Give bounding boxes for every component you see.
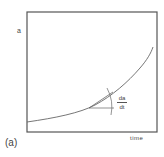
derivative-numerator: da — [119, 95, 126, 102]
slope-arc-marker — [107, 88, 112, 115]
y-axis-label: a — [17, 27, 21, 34]
panel-label: (a) — [5, 138, 17, 148]
growth-curve-diagram — [0, 0, 164, 157]
growth-curve — [27, 47, 153, 122]
derivative-denominator: dt — [119, 103, 124, 110]
derivative-label: da dt — [117, 95, 127, 110]
plot-frame — [27, 12, 157, 132]
tangent-line — [89, 92, 113, 108]
x-axis-label: time — [130, 135, 143, 141]
